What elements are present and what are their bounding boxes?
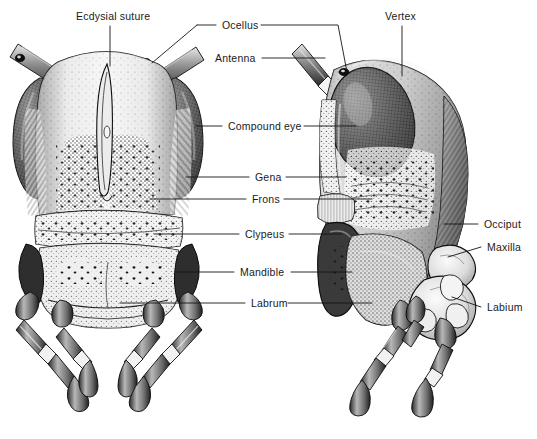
label-vertex: Vertex [385,11,416,22]
label-mandible: Mandible [240,267,284,278]
lateral-head-view [292,44,476,417]
anterior-head-view [10,44,204,412]
label-maxilla: Maxilla [487,242,521,253]
label-frons: Frons [252,194,280,205]
anatomy-plate: Ecdysial suture Ocellus Vertex Antenna C… [0,0,537,439]
label-compound-eye: Compound eye [228,121,302,132]
illustration-canvas [0,0,537,439]
label-labrum: Labrum [251,298,288,309]
label-ecdysial-suture: Ecdysial suture [76,11,150,22]
label-antenna: Antenna [215,53,256,64]
label-gena: Gena [255,172,282,183]
label-occiput: Occiput [484,219,521,230]
label-labium: Labium [487,302,523,313]
label-clypeus: Clypeus [245,229,284,240]
label-ocellus: Ocellus [222,20,258,31]
